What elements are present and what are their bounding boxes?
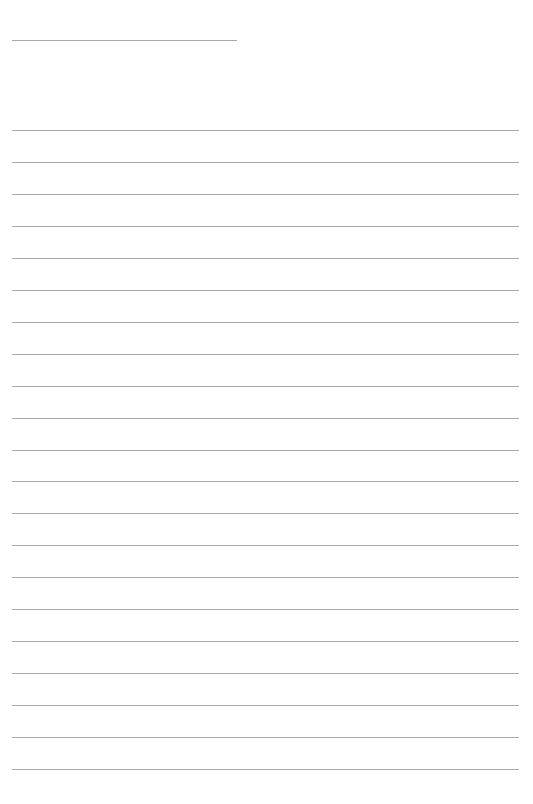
ruled-line bbox=[12, 450, 519, 451]
ruled-line bbox=[12, 769, 519, 770]
ruled-line bbox=[12, 673, 519, 674]
ruled-line bbox=[12, 737, 519, 738]
ruled-line bbox=[12, 162, 519, 163]
ruled-line bbox=[12, 545, 519, 546]
ruled-line bbox=[12, 194, 519, 195]
ruled-line bbox=[12, 290, 519, 291]
ruled-line bbox=[12, 513, 519, 514]
ruled-line bbox=[12, 130, 519, 131]
ruled-line bbox=[12, 354, 519, 355]
ruled-line bbox=[12, 577, 519, 578]
ruled-line bbox=[12, 258, 519, 259]
ruled-line bbox=[12, 705, 519, 706]
ruled-line bbox=[12, 418, 519, 419]
ruled-line bbox=[12, 641, 519, 642]
ruled-line bbox=[12, 322, 519, 323]
header-name-line bbox=[12, 40, 237, 41]
ruled-line bbox=[12, 386, 519, 387]
ruled-line bbox=[12, 609, 519, 610]
ruled-line bbox=[12, 226, 519, 227]
ruled-line bbox=[12, 481, 519, 482]
